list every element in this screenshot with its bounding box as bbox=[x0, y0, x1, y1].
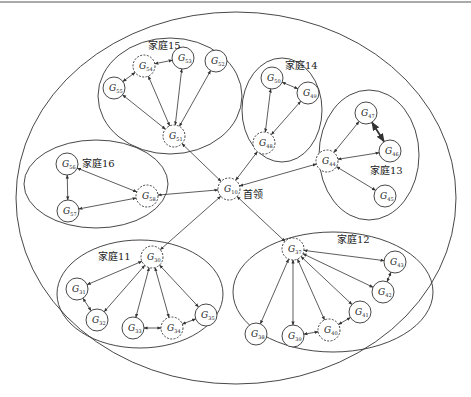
family-edge bbox=[260, 259, 288, 324]
leader-edge bbox=[182, 144, 221, 182]
member-node: G52 bbox=[205, 50, 227, 72]
member-node: G46 bbox=[379, 140, 401, 162]
family-edge bbox=[297, 259, 324, 320]
family-network-diagram: G51G52G53G54G55G50G49G48G47G46G44G45G56G… bbox=[0, 0, 471, 397]
leader-edge bbox=[160, 196, 221, 249]
member-node: G50 bbox=[261, 67, 283, 89]
family-edge bbox=[155, 268, 169, 318]
member-node: G34 bbox=[161, 317, 183, 339]
family-labels: 家庭15家庭14家庭13家庭16家庭11家庭12首领 bbox=[82, 39, 403, 262]
member-node: G56 bbox=[56, 153, 78, 175]
leader-edge bbox=[237, 197, 285, 242]
family-edge bbox=[182, 319, 195, 324]
member-node: G57 bbox=[57, 200, 79, 222]
family-edge bbox=[87, 261, 142, 284]
member-node: G32 bbox=[86, 309, 108, 331]
family-label: 家庭16 bbox=[82, 157, 115, 169]
family-edge bbox=[265, 89, 270, 132]
family-edge bbox=[282, 82, 298, 89]
member-node: G47 bbox=[355, 102, 377, 124]
family-edge bbox=[338, 153, 379, 160]
member-node: G37 bbox=[282, 238, 304, 260]
family-edge bbox=[179, 71, 210, 127]
member-node: G58 bbox=[136, 185, 158, 207]
family-edge bbox=[123, 73, 135, 82]
member-node: G49 bbox=[297, 82, 319, 104]
family-edge bbox=[387, 272, 391, 282]
member-node: G38 bbox=[245, 323, 267, 345]
family-edge bbox=[304, 250, 384, 260]
member-node: G39 bbox=[282, 325, 304, 347]
family-edge bbox=[67, 175, 68, 200]
family-edge bbox=[301, 257, 352, 305]
member-node: G33 bbox=[122, 317, 144, 339]
member-node: G31 bbox=[66, 278, 88, 300]
member-node: G55 bbox=[103, 77, 125, 99]
member-node: G51 bbox=[163, 125, 185, 147]
leader-node: G10 bbox=[218, 178, 240, 200]
family-edge bbox=[104, 265, 145, 311]
member-node: G45 bbox=[374, 185, 396, 207]
family-label: 家庭14 bbox=[285, 59, 318, 71]
family-label: 家庭13 bbox=[370, 164, 403, 176]
family-edge bbox=[155, 60, 172, 64]
member-node: G43 bbox=[384, 251, 406, 273]
family-boundary bbox=[24, 140, 168, 228]
member-node: G42 bbox=[372, 281, 394, 303]
member-node: G44 bbox=[316, 150, 338, 172]
family-edge bbox=[303, 254, 373, 288]
member-node: G35 bbox=[195, 304, 217, 326]
member-node: G48 bbox=[253, 132, 275, 154]
family-label: 家庭15 bbox=[148, 39, 181, 51]
family-edge bbox=[136, 268, 149, 318]
nodes: G51G52G53G54G55G50G49G48G47G46G44G45G56G… bbox=[56, 47, 406, 347]
family-label: 家庭12 bbox=[337, 233, 370, 245]
leader-edge bbox=[240, 164, 317, 186]
member-node: G54 bbox=[133, 55, 155, 77]
family-edge bbox=[159, 265, 198, 307]
leader-edge bbox=[236, 152, 258, 180]
family-edge bbox=[175, 69, 181, 125]
family-label: 家庭11 bbox=[98, 250, 131, 262]
family-edge bbox=[339, 318, 351, 325]
family-edge bbox=[271, 101, 300, 134]
member-node: G30 bbox=[141, 246, 163, 268]
family-edge bbox=[79, 198, 136, 209]
family-edge bbox=[372, 122, 384, 141]
family-edge bbox=[304, 332, 318, 334]
leader-label: 首领 bbox=[243, 188, 263, 200]
family-edge bbox=[77, 168, 137, 192]
member-node: G41 bbox=[349, 301, 371, 323]
member-node: G40 bbox=[318, 319, 340, 341]
family-edge bbox=[334, 122, 359, 153]
family-edge bbox=[83, 298, 91, 311]
